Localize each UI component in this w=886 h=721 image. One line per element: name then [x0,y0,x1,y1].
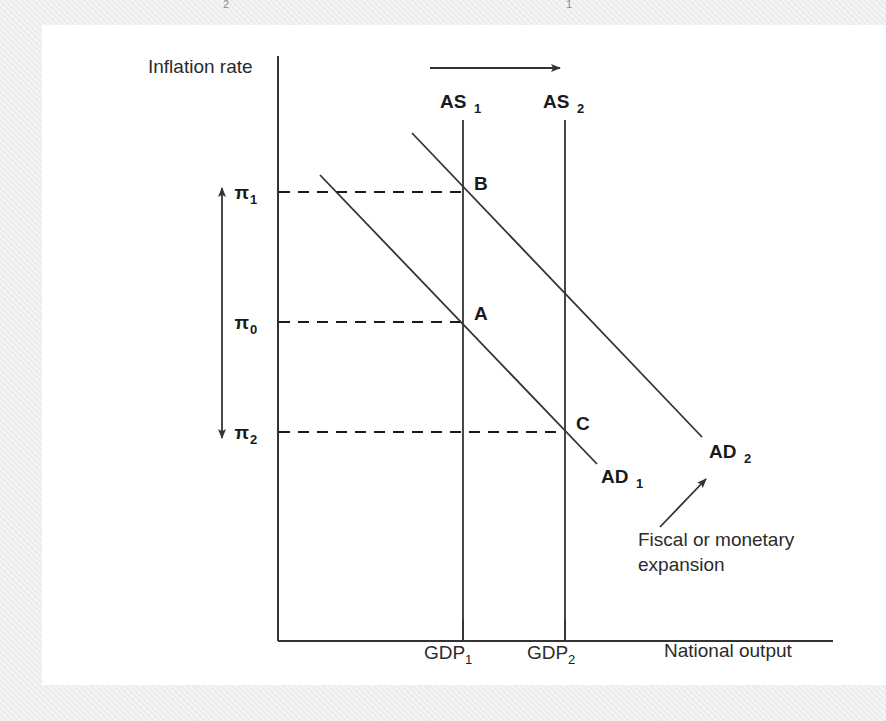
svg-text:GDP: GDP [527,642,568,663]
svg-text:2: 2 [568,652,575,667]
svg-text:2: 2 [577,101,584,116]
y-tick-label-pi2: π 2 [234,422,257,447]
point-label-b: B [474,173,488,194]
svg-text:π: π [234,182,249,203]
x-axis-label: National output [664,640,793,661]
svg-text:AD: AD [709,441,736,462]
ad-as-diagram: Inflation rate National output π 1 π 0 π… [0,0,886,721]
svg-text:1: 1 [250,192,257,207]
point-label-a: A [474,303,488,324]
curve-ad1 [320,175,597,464]
svg-text:0: 0 [250,322,257,337]
svg-text:2: 2 [250,432,257,447]
svg-text:2: 2 [744,451,751,466]
x-tick-label-gdp1: GDP 1 [424,642,472,667]
svg-text:π: π [234,312,249,333]
point-label-c: C [576,413,590,434]
x-tick-label-gdp2: GDP 2 [527,642,575,667]
y-tick-label-pi0: π 0 [234,312,257,337]
expansion-note-line1: Fiscal or monetary [638,529,795,550]
y-tick-label-pi1: π 1 [234,182,257,207]
curve-label-as1: AS 1 [440,91,481,116]
svg-text:1: 1 [474,101,481,116]
curve-label-ad2: AD 2 [709,441,751,466]
expansion-note-line2: expansion [638,554,725,575]
svg-text:AD: AD [601,466,628,487]
expansion-pointer-arrow [660,479,706,527]
svg-text:AS: AS [543,91,569,112]
y-axis-label: Inflation rate [148,56,253,77]
svg-text:1: 1 [636,476,643,491]
curve-ad2 [412,133,702,437]
svg-text:AS: AS [440,91,466,112]
svg-text:1: 1 [465,652,472,667]
curve-label-as2: AS 2 [543,91,584,116]
svg-text:GDP: GDP [424,642,465,663]
figure-root: 2 1 Inflation rate [0,0,886,721]
curve-label-ad1: AD 1 [601,466,643,491]
svg-text:π: π [234,422,249,443]
